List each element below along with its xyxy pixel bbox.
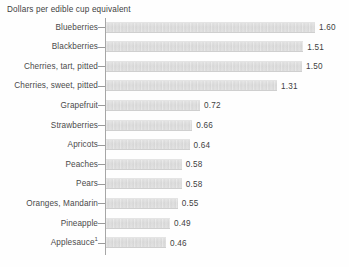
axis-tick (98, 203, 105, 204)
bar-chart: Dollars per edible cup equivalent Bluebe… (0, 0, 349, 267)
bar-value-label: 1.50 (306, 61, 323, 73)
axis-tick (98, 223, 105, 224)
plot-area: Blueberries1.60Blackberries1.51Cherries,… (0, 18, 349, 264)
axis-tick (98, 145, 105, 146)
axis-tick (98, 184, 105, 185)
bar-value-label: 0.66 (196, 120, 213, 132)
axis-tick (98, 164, 105, 165)
bar-row: Pineapple0.49 (0, 218, 349, 238)
category-label: Cherries, tart, pitted (0, 61, 98, 73)
bar-row: Grapefruit0.72 (0, 100, 349, 120)
category-label: Blueberries (0, 22, 98, 34)
bar-value-label: 0.64 (194, 140, 211, 152)
bar (106, 139, 190, 150)
bar (106, 100, 200, 111)
bar-value-label: 0.55 (182, 198, 199, 210)
bar-value-label: 1.31 (281, 81, 298, 93)
bar-row: Strawberries0.66 (0, 120, 349, 140)
footnote-marker: 1 (95, 236, 98, 242)
bar-value-label: 0.58 (186, 159, 203, 171)
axis-tick (98, 47, 105, 48)
chart-title: Dollars per edible cup equivalent (7, 4, 131, 15)
category-label: Blackberries (0, 41, 98, 53)
bar-row: Applesauce10.46 (0, 237, 349, 257)
bar (106, 159, 182, 170)
category-label: Cherries, sweet, pitted (0, 80, 98, 92)
bar-value-label: 1.60 (319, 22, 336, 34)
bar-row: Cherries, tart, pitted1.50 (0, 61, 349, 81)
bar (106, 178, 182, 189)
axis-tick (98, 66, 105, 67)
category-label: Applesauce1 (0, 237, 98, 249)
bar (106, 120, 192, 131)
bar-row: Cherries, sweet, pitted1.31 (0, 80, 349, 100)
bar (106, 22, 315, 33)
axis-tick (98, 105, 105, 106)
category-label: Grapefruit (0, 100, 98, 112)
bar-value-label: 0.46 (170, 238, 187, 250)
category-label: Pineapple (0, 218, 98, 230)
axis-tick (98, 243, 105, 244)
category-label: Oranges, Mandarin (0, 198, 98, 210)
bar-value-label: 0.72 (204, 100, 221, 112)
bar (106, 61, 302, 72)
axis-tick (98, 86, 105, 87)
bar-row: Blackberries1.51 (0, 41, 349, 61)
category-label: Pears (0, 178, 98, 190)
bar-value-label: 1.51 (307, 42, 324, 54)
category-label: Apricots (0, 139, 98, 151)
bar-row: Oranges, Mandarin0.55 (0, 198, 349, 218)
bar-value-label: 0.49 (174, 218, 191, 230)
bar-row: Peaches0.58 (0, 159, 349, 179)
bar (106, 198, 178, 209)
bar (106, 41, 303, 52)
bar (106, 237, 166, 248)
axis-tick (98, 125, 105, 126)
bar (106, 218, 170, 229)
category-label: Strawberries (0, 120, 98, 132)
category-label: Peaches (0, 159, 98, 171)
bar (106, 80, 277, 91)
bar-row: Blueberries1.60 (0, 22, 349, 42)
bar-row: Pears0.58 (0, 178, 349, 198)
axis-tick (98, 27, 105, 28)
bar-value-label: 0.58 (186, 179, 203, 191)
bar-row: Apricots0.64 (0, 139, 349, 159)
